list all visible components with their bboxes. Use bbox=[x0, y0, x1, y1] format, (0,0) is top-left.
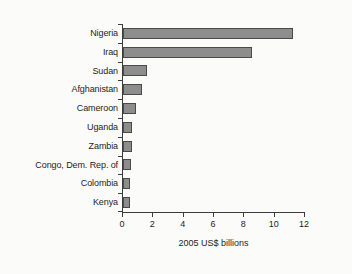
y-axis-tick bbox=[118, 24, 122, 25]
y-axis-label: Cameroon bbox=[6, 99, 118, 118]
bar-chart-figure: Nigeria Iraq Sudan Afghanistan Cameroon … bbox=[0, 0, 352, 274]
bar bbox=[123, 197, 130, 208]
bar bbox=[123, 141, 132, 152]
bar-series bbox=[123, 24, 305, 212]
y-axis-label: Congo, Dem. Rep. of bbox=[6, 156, 118, 175]
bar-row bbox=[123, 193, 305, 212]
x-axis-tick-label: 6 bbox=[210, 219, 215, 229]
y-axis-tick bbox=[118, 43, 122, 44]
y-axis-tick bbox=[118, 62, 122, 63]
bar-row bbox=[123, 43, 305, 62]
x-axis-tick bbox=[152, 213, 153, 217]
y-axis-category-labels: Nigeria Iraq Sudan Afghanistan Cameroon … bbox=[6, 24, 118, 212]
x-axis-tick-labels: 024681012 bbox=[122, 219, 305, 231]
bar-row bbox=[123, 99, 305, 118]
x-axis-tick-label: 4 bbox=[180, 219, 185, 229]
bar-row bbox=[123, 80, 305, 99]
y-axis-label: Nigeria bbox=[6, 24, 118, 43]
bar-row bbox=[123, 174, 305, 193]
x-axis-tick-label: 2 bbox=[150, 219, 155, 229]
bar-row bbox=[123, 24, 305, 43]
bar-row bbox=[123, 118, 305, 137]
y-axis-label: Sudan bbox=[6, 62, 118, 81]
y-axis-label: Uganda bbox=[6, 118, 118, 137]
y-axis-ticks bbox=[118, 24, 122, 212]
x-axis-tick-label: 10 bbox=[269, 219, 279, 229]
x-axis-tick bbox=[122, 213, 123, 217]
y-axis-tick bbox=[118, 80, 122, 81]
bar bbox=[123, 84, 142, 95]
bar bbox=[123, 178, 130, 189]
x-axis-tick bbox=[183, 213, 184, 217]
plot-area bbox=[122, 24, 305, 212]
y-axis-tick bbox=[118, 193, 122, 194]
bar bbox=[123, 159, 131, 170]
x-axis-tick bbox=[243, 213, 244, 217]
bar-row bbox=[123, 62, 305, 81]
bar bbox=[123, 65, 147, 76]
x-axis-tick-label: 12 bbox=[299, 219, 309, 229]
y-axis-tick bbox=[118, 137, 122, 138]
bar-row bbox=[123, 137, 305, 156]
bar-row bbox=[123, 156, 305, 175]
bar bbox=[123, 122, 132, 133]
x-axis-tick-label: 8 bbox=[241, 219, 246, 229]
x-axis-tick bbox=[213, 213, 214, 217]
y-axis-tick bbox=[118, 156, 122, 157]
y-axis-tick bbox=[118, 99, 122, 100]
y-axis-label: Iraq bbox=[6, 43, 118, 62]
y-axis-label: Zambia bbox=[6, 137, 118, 156]
bar bbox=[123, 47, 252, 58]
y-axis-label: Kenya bbox=[6, 193, 118, 212]
y-axis-tick bbox=[118, 174, 122, 175]
bar bbox=[123, 103, 136, 114]
x-axis-ticks bbox=[122, 213, 305, 217]
y-axis-tick bbox=[118, 118, 122, 119]
x-axis-tick-label: 0 bbox=[119, 219, 124, 229]
x-axis-tick bbox=[274, 213, 275, 217]
y-axis-label: Afghanistan bbox=[6, 80, 118, 99]
x-axis-title: 2005 US$ billions bbox=[122, 238, 305, 248]
y-axis-label: Colombia bbox=[6, 174, 118, 193]
bar bbox=[123, 28, 293, 39]
x-axis-tick bbox=[304, 213, 305, 217]
